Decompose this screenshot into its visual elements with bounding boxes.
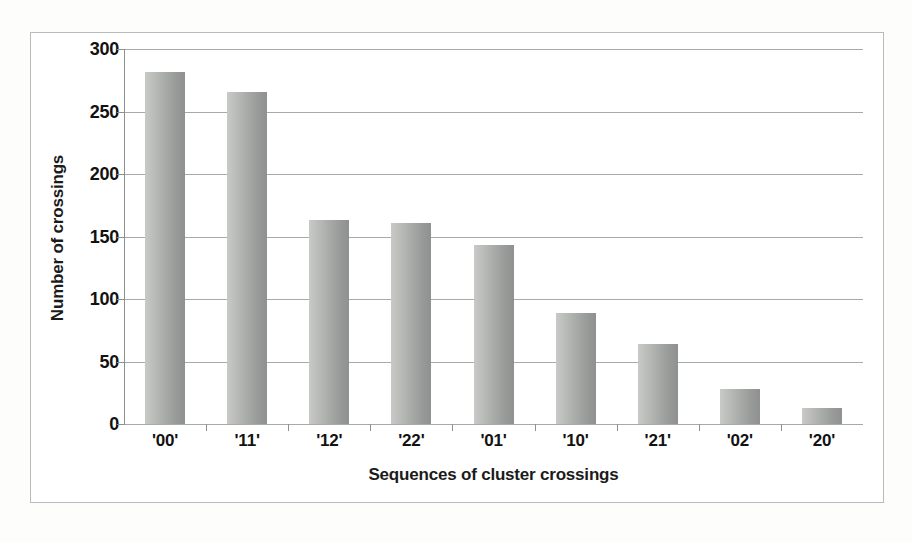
plot-area	[124, 49, 863, 424]
x-tick-mark	[452, 424, 453, 431]
x-axis-tick-labels: '00''11''12''22''01''10''21''02''20'	[124, 431, 863, 459]
y-tick-label: 150	[67, 226, 119, 247]
y-tick-label: 0	[67, 414, 119, 435]
y-tick-label: 100	[67, 289, 119, 310]
bar	[227, 92, 267, 425]
x-tick-label: '22'	[398, 431, 424, 451]
x-tick-label: '01'	[480, 431, 506, 451]
bar	[556, 313, 596, 424]
x-tick-mark	[535, 424, 536, 431]
bar	[145, 72, 185, 425]
x-tick-mark	[781, 424, 782, 431]
x-tick-mark	[617, 424, 618, 431]
x-tick-label: '02'	[727, 431, 753, 451]
x-tick-label: '11'	[235, 431, 260, 451]
y-axis-tick-labels: 050100150200250300	[67, 33, 119, 504]
bar-chart: Number of crossings 050100150200250300 '…	[31, 33, 885, 504]
x-tick-mark	[206, 424, 207, 431]
x-tick-label: '10'	[563, 431, 589, 451]
x-tick-label: '20'	[809, 431, 835, 451]
gridline	[124, 424, 863, 425]
x-tick-mark	[370, 424, 371, 431]
y-tick-mark	[117, 424, 125, 425]
y-tick-label: 300	[67, 39, 119, 60]
x-tick-label: '21'	[645, 431, 671, 451]
figure-frame: Number of crossings 050100150200250300 '…	[30, 32, 884, 503]
bar	[720, 389, 760, 424]
bar	[391, 223, 431, 424]
y-axis-title: Number of crossings	[48, 123, 68, 353]
bar	[638, 344, 678, 424]
bar	[309, 220, 349, 424]
y-tick-label: 200	[67, 164, 119, 185]
x-tick-mark	[699, 424, 700, 431]
bar-series	[124, 49, 863, 424]
bar	[802, 408, 842, 424]
x-axis-title: Sequences of cluster crossings	[124, 465, 863, 485]
x-tick-label: '12'	[316, 431, 342, 451]
x-tick-label: '00'	[152, 431, 178, 451]
bar	[474, 245, 514, 424]
x-tick-mark	[288, 424, 289, 431]
y-tick-label: 250	[67, 101, 119, 122]
y-tick-label: 50	[67, 351, 119, 372]
